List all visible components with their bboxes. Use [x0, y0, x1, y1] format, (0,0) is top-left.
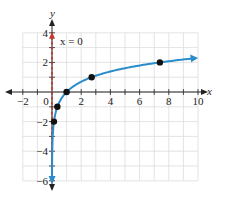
data-point — [54, 104, 60, 110]
y-tick-label: −6 — [36, 175, 48, 187]
x-tick-label: 0 — [43, 95, 49, 107]
y-axis-down-arrow-icon — [49, 184, 55, 191]
y-tick-label: 2 — [43, 56, 49, 68]
x-tick-label: 6 — [137, 95, 143, 107]
y-axis-up-arrow-icon — [49, 19, 55, 26]
data-point — [157, 59, 163, 65]
log-function-graph: −20246810−6−4−224 x y x = 0 — [0, 0, 227, 202]
x-tick-label: −2 — [17, 95, 29, 107]
x-axis-label: x — [206, 85, 212, 97]
x-axis-left-arrow-icon — [5, 89, 12, 95]
y-tick-label: −4 — [36, 145, 48, 157]
x-tick-label: 2 — [78, 95, 84, 107]
y-tick-label: 4 — [43, 27, 49, 39]
asymptote-label: x = 0 — [60, 35, 83, 47]
data-point — [51, 118, 57, 124]
curve-ln-x — [49, 55, 199, 185]
data-point — [88, 74, 94, 80]
axes — [5, 19, 208, 191]
y-tick-label: −2 — [36, 116, 48, 128]
data-point — [63, 89, 69, 95]
x-tick-label: 10 — [193, 95, 205, 107]
y-axis-label: y — [49, 7, 55, 19]
x-tick-label: 4 — [108, 95, 114, 107]
curve-down-arrow-icon — [49, 176, 56, 184]
curve-right-arrow-icon — [190, 55, 198, 63]
x-tick-label: 8 — [166, 95, 172, 107]
